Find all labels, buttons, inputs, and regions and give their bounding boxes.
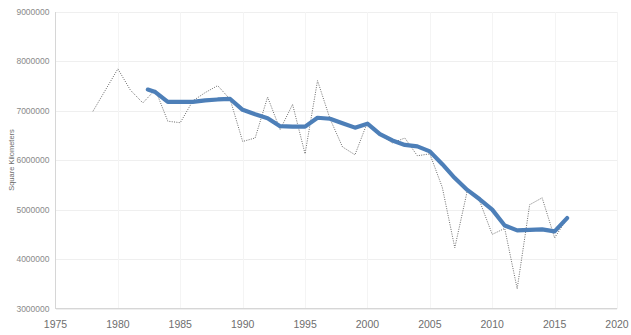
y-tick-label: 6000000 bbox=[16, 155, 49, 165]
x-tick-label: 2000 bbox=[356, 318, 380, 330]
line-chart: 3000000400000050000006000000700000080000… bbox=[0, 0, 631, 335]
x-tick-label: 1975 bbox=[44, 318, 68, 330]
y-tick-label: 4000000 bbox=[16, 254, 49, 264]
y-tick-label: 8000000 bbox=[16, 56, 49, 66]
y-tick-label: 5000000 bbox=[16, 205, 49, 215]
x-tick-label: 1995 bbox=[293, 318, 317, 330]
chart-container: 3000000400000050000006000000700000080000… bbox=[0, 0, 631, 335]
raw-data-line bbox=[93, 69, 567, 289]
x-axis-tick-labels: 1975198019851990199520002005201020152020 bbox=[44, 318, 629, 330]
y-tick-label: 7000000 bbox=[16, 106, 49, 116]
x-tick-label: 1980 bbox=[106, 318, 130, 330]
horizontal-gridlines bbox=[56, 13, 618, 310]
x-tick-label: 2015 bbox=[543, 318, 567, 330]
x-tick-label: 1990 bbox=[231, 318, 255, 330]
y-tick-label: 9000000 bbox=[16, 7, 49, 17]
y-axis-title: Square Kilometers bbox=[7, 129, 16, 191]
x-tick-label: 2020 bbox=[605, 318, 629, 330]
x-tick-label: 1985 bbox=[169, 318, 193, 330]
y-axis-tick-labels: 3000000400000050000006000000700000080000… bbox=[16, 7, 49, 314]
y-tick-label: 3000000 bbox=[16, 304, 49, 314]
x-tick-label: 2010 bbox=[481, 318, 505, 330]
x-tick-label: 2005 bbox=[418, 318, 442, 330]
